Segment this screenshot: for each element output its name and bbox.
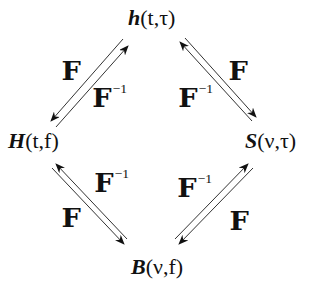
node-left-symbol: H [8,128,25,153]
node-top: h(t,τ) [128,7,175,29]
node-top-symbol: h [128,5,140,30]
node-right: S(ν,τ) [245,130,296,152]
node-bottom: B(ν,f) [131,256,183,278]
label-forward-left-bottom: F [62,205,81,231]
node-left-args: (t,f) [25,128,59,153]
label-forward-right-top: F [229,58,248,84]
node-right-symbol: S [245,128,257,153]
node-left: H(t,f) [8,130,59,152]
label-inverse-right-top: F−1 [178,85,213,111]
node-bottom-symbol: B [131,254,146,279]
label-forward-right-bottom: F [230,208,249,234]
label-inverse-left-bottom: F−1 [94,170,129,196]
label-inverse-right-bottom: F−1 [177,175,212,201]
label-inverse-left-top: F−1 [92,85,127,111]
node-top-args: (t,τ) [140,5,175,30]
node-bottom-args: (ν,f) [146,254,183,279]
label-forward-left-top: F [62,58,81,84]
node-right-args: (ν,τ) [257,128,296,153]
